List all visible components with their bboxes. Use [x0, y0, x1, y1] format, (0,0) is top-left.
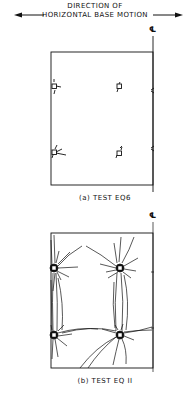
- panel-a-drawing: [0, 0, 190, 200]
- opening-icon: [52, 84, 57, 89]
- caption-b: (b) TEST EQ II: [40, 377, 170, 385]
- panel-b-drawing: [0, 200, 190, 380]
